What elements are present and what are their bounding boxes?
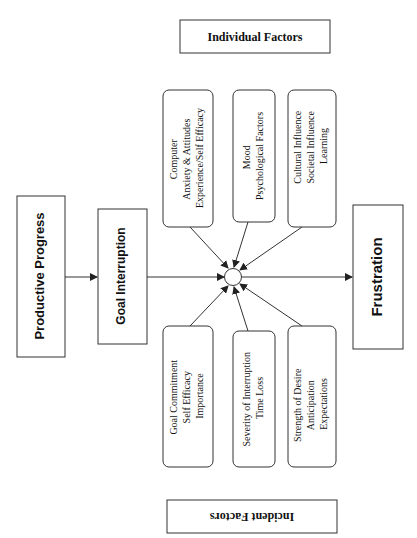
- incident-factor-box-1: Goal Commitment Self Efficacy Importance: [163, 326, 213, 467]
- factor-line: Importance: [194, 373, 205, 419]
- factor-line: Expectations: [318, 378, 329, 430]
- factor-line: Societal Influence: [305, 110, 316, 183]
- factor-line: Mood: [241, 145, 252, 169]
- factor-line: Anxiety & Attitudes: [181, 119, 192, 200]
- factor-line: Cultural Influence: [292, 110, 303, 184]
- goal-interruption-label: Goal Interruption: [114, 227, 128, 324]
- individual-factors-header: Individual Factors: [180, 20, 330, 53]
- factor-line: Learning: [318, 128, 329, 164]
- factor-line: Anticipation: [305, 380, 316, 430]
- arrow-individual-1: [190, 227, 228, 268]
- factor-line: Strength of Desire: [292, 368, 303, 442]
- factor-line: Experience/Self Efficacy: [194, 108, 205, 208]
- individual-factor-box-1: Computer Anxiety & Attitudes Experience/…: [163, 90, 213, 227]
- frustration-label: Frustration: [368, 237, 385, 316]
- factor-line: Goal Commitment: [168, 360, 179, 435]
- arrow-individual-2: [234, 222, 248, 267]
- individual-factor-box-3: Cultural Influence Societal Influence Le…: [288, 90, 336, 227]
- arrow-incident-3: [240, 284, 302, 326]
- productive-progress-box: Productive Progress: [17, 196, 65, 357]
- frustration-model-diagram: Individual Factors Incident Factors Prod…: [0, 0, 417, 538]
- factor-line: Psychological Factors: [254, 112, 265, 200]
- factor-line: Time Loss: [254, 377, 265, 419]
- individual-factors-label: Individual Factors: [207, 30, 302, 44]
- incident-factor-box-3: Strength of Desire Anticipation Expectat…: [288, 326, 336, 467]
- incident-factors-header: Incident Factors: [167, 500, 337, 533]
- factor-line: Computer: [168, 139, 179, 180]
- frustration-box: Frustration: [353, 205, 403, 349]
- individual-factor-box-2: Mood Psychological Factors: [233, 90, 275, 222]
- junction-node: [225, 269, 242, 286]
- arrow-incident-2: [234, 287, 248, 331]
- goal-interruption-box: Goal Interruption: [98, 209, 147, 344]
- arrow-incident-1: [190, 286, 228, 326]
- factor-line: Self Efficacy: [181, 371, 192, 423]
- incident-factor-box-2: Severity of Interruption Time Loss: [233, 331, 275, 467]
- productive-progress-label: Productive Progress: [32, 212, 47, 339]
- incident-factors-label: Incident Factors: [210, 510, 295, 524]
- arrow-individual-3: [240, 227, 302, 270]
- factor-line: Severity of Interruption: [241, 352, 252, 446]
